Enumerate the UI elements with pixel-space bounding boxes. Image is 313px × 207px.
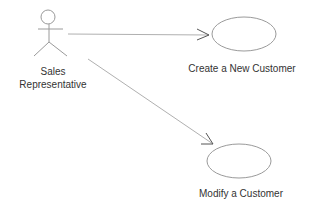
use-case-create-new-customer[interactable] [212, 17, 276, 51]
actor-left-leg [34, 42, 49, 56]
use-case-label-modify: Modify a Customer [199, 188, 283, 200]
actor-label-line-1: Sales [40, 66, 65, 78]
actor-label-line-2: Representative [19, 79, 86, 91]
use-case-modify-customer[interactable] [207, 144, 271, 178]
diagram-canvas [0, 0, 313, 207]
actor-head-icon [41, 10, 55, 24]
actor-right-leg [49, 42, 67, 56]
actor-sales-representative[interactable] [34, 10, 67, 56]
use-case-label-create: Create a New Customer [188, 63, 295, 75]
association-create-customer[interactable] [68, 29, 209, 40]
